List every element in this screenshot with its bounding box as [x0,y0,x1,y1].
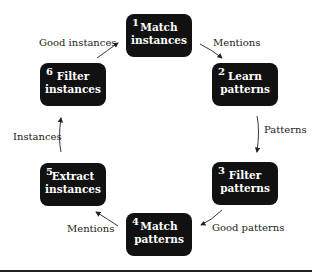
node-label: Match patterns [126,220,192,246]
node-label: Filter instances [40,70,106,96]
node-label: Learn patterns [212,70,278,96]
bottom-rule [0,270,312,272]
node-label: Filter patterns [212,169,278,195]
node-learn-patterns: 2 Learn patterns [212,63,278,106]
node-filter-patterns: 3 Filter patterns [212,162,278,205]
node-label: Extract instances [40,170,106,196]
edge-label-patterns: Patterns [264,124,307,135]
node-extract-instances: 5 Extract instances [40,163,106,206]
cycle-diagram: 1 Match instances 2 Learn patterns 3 Fil… [0,0,312,273]
node-filter-instances: 6 Filter instances [40,63,106,106]
node-match-patterns: 4 Match patterns [126,213,192,256]
arrow-2-3 [257,116,259,152]
node-match-instances: 1 Match instances [126,14,192,57]
edge-label-good-instances: Good instances [39,37,116,48]
node-label: Match instances [126,21,192,47]
edge-label-good-patterns: Good patterns [212,222,284,233]
edge-label-mentions-top: Mentions [213,37,260,48]
edge-label-mentions-bottom: Mentions [67,223,114,234]
edge-label-instances: Instances [13,131,62,142]
